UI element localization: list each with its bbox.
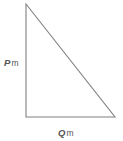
- vertical-side-unit: m: [12, 58, 19, 68]
- horizontal-side-variable: Q: [58, 127, 66, 138]
- horizontal-side-label: Qm: [58, 128, 74, 138]
- right-triangle-figure: Pm Qm: [0, 0, 123, 141]
- triangle-shape: [0, 0, 123, 141]
- vertical-side-label: Pm: [4, 58, 19, 68]
- vertical-side-variable: P: [4, 57, 11, 68]
- horizontal-side-unit: m: [67, 128, 74, 138]
- triangle-outline: [26, 4, 115, 117]
